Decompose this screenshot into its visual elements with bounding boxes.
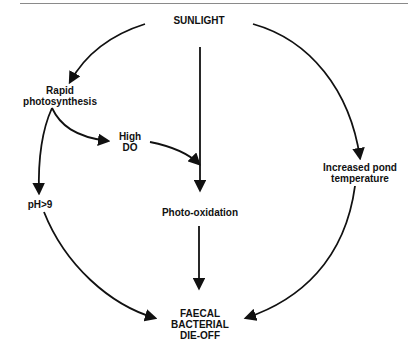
node-bacterial-dieoff: FAECAL BACTERIAL DIE-OFF <box>165 308 235 341</box>
node-label-line: High <box>112 131 148 142</box>
arrow-temperature-to-dieoff <box>246 186 355 318</box>
node-label-line: Increased pond <box>312 162 408 173</box>
arrow-sunlight-to-temperature <box>253 24 360 158</box>
node-sunlight-label: SUNLIGHT <box>173 15 224 26</box>
arrow-highdo-to-photooxidation <box>150 142 199 164</box>
node-sunlight: SUNLIGHT <box>168 15 230 26</box>
arrow-sunlight-to-photosynthesis <box>70 24 145 82</box>
node-increased-temperature: Increased pond temperature <box>312 162 408 184</box>
node-label-line: Rapid <box>15 85 105 96</box>
node-ph: pH>9 <box>20 199 60 210</box>
node-label-line: FAECAL <box>165 308 235 319</box>
node-label-line: photosynthesis <box>15 96 105 107</box>
arrow-ph-to-dieoff <box>44 212 155 318</box>
arrow-photosynthesis-to-highdo <box>52 108 108 141</box>
node-label-line: DO <box>112 142 148 153</box>
node-ph-label: pH>9 <box>28 199 53 210</box>
node-photo-oxidation: Photo-oxidation <box>150 207 250 218</box>
node-high-do: High DO <box>112 131 148 153</box>
node-photo-oxidation-label: Photo-oxidation <box>162 207 238 218</box>
node-label-line: temperature <box>312 173 408 184</box>
arrow-photosynthesis-to-ph <box>39 108 52 193</box>
node-rapid-photosynthesis: Rapid photosynthesis <box>15 85 105 107</box>
node-label-line: DIE-OFF <box>165 330 235 341</box>
node-label-line: BACTERIAL <box>165 319 235 330</box>
